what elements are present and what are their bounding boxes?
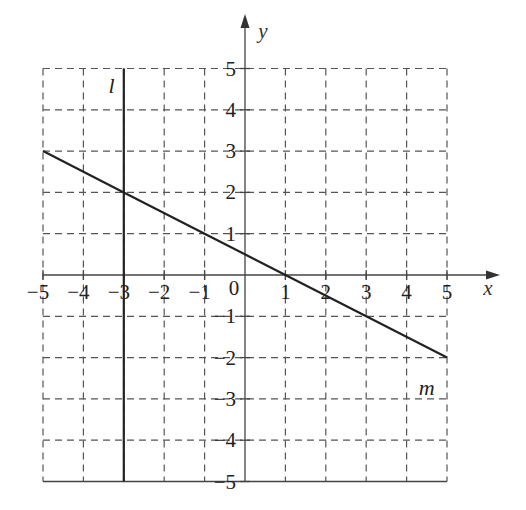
y-tick-label: −1: [214, 304, 236, 328]
y-tick-label: −3: [214, 387, 236, 411]
y-axis-label: y: [256, 19, 268, 43]
y-tick-label: 5: [226, 57, 237, 81]
line-m-label: m: [419, 375, 435, 400]
x-axis-label: x: [482, 276, 493, 300]
x-tick-label: −2: [148, 280, 170, 304]
y-tick-label: −2: [214, 346, 236, 370]
y-axis-arrow-icon: [241, 14, 250, 28]
y-tick-label: 2: [226, 180, 237, 204]
x-tick-label: −5: [27, 280, 49, 304]
x-tick-label: −4: [67, 280, 90, 304]
y-tick-label: −5: [214, 470, 236, 494]
tick-labels: −5−4−3−2−112345−5−4−3−2−1123450xy: [27, 19, 494, 494]
x-tick-label: 1: [280, 280, 291, 304]
y-tick-label: 4: [226, 98, 237, 122]
origin-label: 0: [229, 276, 240, 300]
x-tick-label: −1: [188, 280, 210, 304]
y-tick-label: 1: [226, 222, 237, 246]
line-l-label: l: [109, 73, 115, 98]
x-tick-label: 2: [321, 280, 332, 304]
y-tick-label: −4: [214, 428, 237, 452]
x-tick-label: 3: [361, 280, 372, 304]
x-tick-label: 4: [401, 280, 412, 304]
x-tick-label: 5: [442, 280, 453, 304]
y-tick-label: 3: [226, 139, 237, 163]
x-tick-label: −3: [108, 280, 130, 304]
coordinate-plane: lm −5−4−3−2−112345−5−4−3−2−1123450xy: [0, 0, 526, 510]
